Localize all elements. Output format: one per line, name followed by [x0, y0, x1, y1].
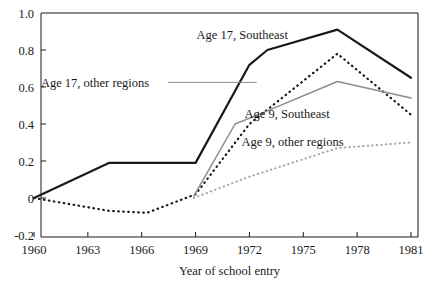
y-tick-label: 0.6 [18, 81, 34, 95]
y-tick-label: 0.2 [18, 155, 34, 169]
x-tick-label: 1960 [22, 243, 47, 257]
x-tick-label: 1969 [183, 243, 208, 257]
series-line-0 [34, 30, 411, 198]
y-tick-label: 0.4 [18, 118, 34, 132]
series-label-1: Age 17, other regions [41, 76, 149, 90]
chart-canvas: 1.00.80.60.40.20-0.219601963196619691972… [0, 0, 434, 288]
y-tick-label: -0.2 [14, 229, 34, 243]
x-tick-label: 1981 [399, 243, 424, 257]
y-tick-label: 0.8 [18, 44, 34, 58]
x-tick-label: 1975 [291, 243, 316, 257]
y-tick-label: 1.0 [18, 7, 34, 21]
series-line-3 [194, 143, 411, 199]
series-label-3: Age 9, other regions [241, 135, 343, 149]
x-axis-title: Year of school entry [179, 264, 281, 278]
x-tick-label: 1978 [345, 243, 370, 257]
series-label-0: Age 17, Southeast [197, 28, 289, 42]
x-tick-label: 1963 [75, 243, 100, 257]
x-tick-label: 1966 [129, 243, 154, 257]
chart-figure: 1.00.80.60.40.20-0.219601963196619691972… [0, 0, 434, 288]
series-label-2: Age 9, Southeast [245, 107, 331, 121]
x-tick-label: 1972 [237, 243, 262, 257]
